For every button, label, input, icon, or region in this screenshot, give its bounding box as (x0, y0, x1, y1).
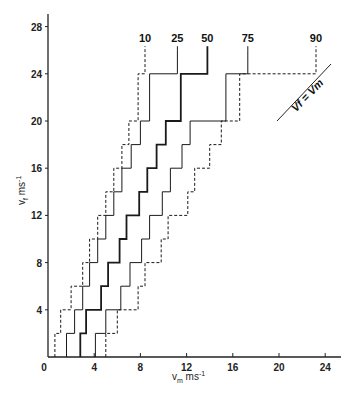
y-tick-label: 24 (31, 69, 43, 80)
identity-line-label: Vf = Vm (289, 76, 326, 114)
x-tick-label: 4 (91, 362, 97, 373)
y-tick-label: 16 (31, 163, 43, 174)
series-50-line (80, 46, 207, 357)
x-tick-label: 0 (41, 362, 47, 373)
series-75-line (95, 46, 247, 357)
y-tick-label: 8 (36, 258, 42, 269)
series (55, 46, 316, 357)
x-tick-label: 16 (227, 362, 239, 373)
y-tick-label: 4 (36, 305, 42, 316)
series-10-label: 10 (139, 32, 151, 44)
series-labels: 1025507590 (139, 32, 322, 44)
x-axis-label: vm ms-1 (172, 370, 205, 384)
y-tick-label: 28 (31, 22, 43, 33)
y-axis-label: vf ms-1 (15, 176, 29, 205)
identity-line: Vf = Vm (277, 64, 331, 121)
x-tick-label: 8 (138, 362, 144, 373)
series-90-label: 90 (310, 32, 322, 44)
series-25-line (67, 46, 178, 357)
series-90-line (106, 46, 316, 357)
series-25-label: 25 (171, 32, 183, 44)
y-tick-label: 12 (31, 210, 43, 221)
x-tick-label: 20 (273, 362, 285, 373)
y-tick-label: 20 (31, 116, 43, 127)
step-chart: 04812162024481216202428 1025507590 Vf = … (0, 0, 359, 399)
x-tick-label: 24 (320, 362, 332, 373)
series-75-label: 75 (242, 32, 254, 44)
series-50-label: 50 (201, 32, 213, 44)
